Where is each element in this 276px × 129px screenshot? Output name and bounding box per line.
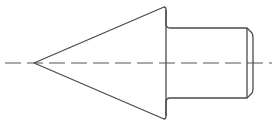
technical-drawing — [0, 0, 276, 129]
